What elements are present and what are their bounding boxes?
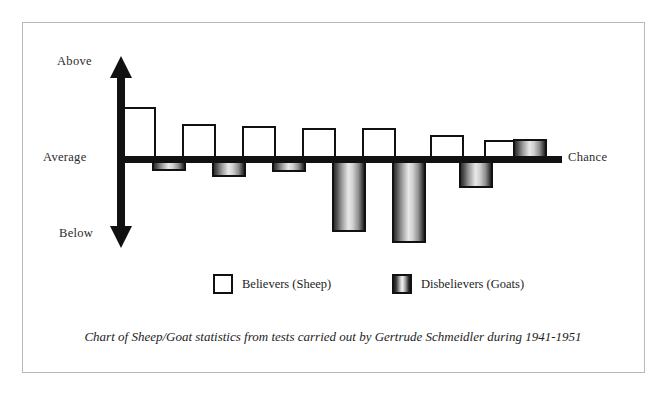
vertical-axis — [117, 72, 125, 234]
chart-legend: Believers (Sheep) Disbelievers (Goats) — [0, 274, 666, 300]
bar-sheep-3 — [242, 126, 276, 160]
bar-goat-5 — [392, 160, 426, 243]
arrow-down-icon — [110, 226, 132, 248]
chance-baseline — [118, 156, 562, 163]
legend-label-sheep: Believers (Sheep) — [242, 277, 331, 292]
figure-caption: Chart of Sheep/Goat statistics from test… — [0, 329, 666, 345]
legend-item-goats: Disbelievers (Goats) — [392, 274, 524, 294]
bar-goat-4 — [332, 160, 366, 232]
bar-sheep-2 — [182, 124, 216, 160]
arrow-up-icon — [110, 56, 132, 78]
legend-item-sheep: Believers (Sheep) — [213, 274, 331, 294]
screenshot-page: Above Average Below Chance Believers (Sh… — [0, 0, 666, 396]
legend-swatch-goats-icon — [392, 274, 412, 294]
axis-label-chance: Chance — [568, 150, 607, 165]
axis-label-average: Average — [43, 150, 87, 165]
axis-label-below: Below — [59, 226, 93, 241]
bar-goat-6 — [459, 160, 493, 188]
legend-swatch-sheep-icon — [213, 274, 233, 294]
axis-label-above: Above — [57, 54, 92, 69]
legend-label-goats: Disbelievers (Goats) — [421, 277, 524, 292]
bar-sheep-1 — [122, 107, 156, 160]
